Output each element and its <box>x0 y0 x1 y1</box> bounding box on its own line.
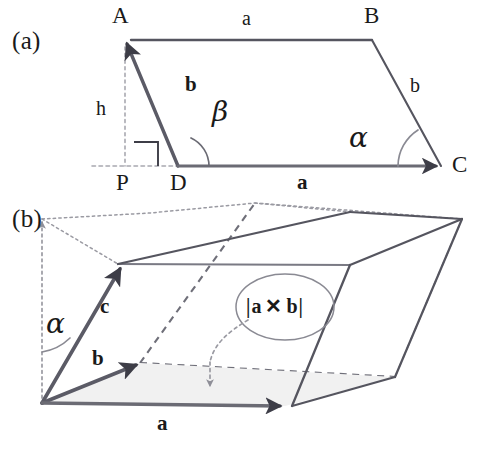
vertex-label-C: C <box>452 153 467 176</box>
cross-times-icon: ✕ <box>262 295 286 317</box>
vector-label-b-panel-a: b <box>185 74 197 95</box>
cross-operand-a: a <box>251 295 262 317</box>
vector-geometry-figure: (a) A B C D P a b h b a β α (b) c b a α … <box>0 0 490 450</box>
panel-a-tag: (a) <box>12 28 41 53</box>
panel-a-graphics <box>92 40 441 166</box>
angle-label-alpha-panel-a: α <box>349 124 368 152</box>
callout-curve-dotted <box>210 320 248 362</box>
top-face-right-edge <box>350 212 462 219</box>
vertex-label-D: D <box>170 171 187 194</box>
back-top-dotted-edge <box>42 203 350 219</box>
angle-arc-alpha-b <box>42 338 70 352</box>
vector-label-a-panel-a: a <box>297 172 308 193</box>
cross-bar-right: | <box>299 295 304 317</box>
side-label-top-a: a <box>242 8 251 28</box>
angle-arc-beta <box>191 138 209 166</box>
figure-canvas <box>0 0 490 450</box>
vector-label-b-panel-b: b <box>92 348 104 369</box>
vector-label-a-panel-b: a <box>157 413 168 434</box>
hidden-edge-btip-vertical-dashed <box>140 203 255 363</box>
top-face-near-edge <box>118 264 350 265</box>
angle-label-beta: β <box>212 98 228 126</box>
vertex-label-B: B <box>364 4 379 27</box>
panel-b-tag: (b) <box>12 206 42 231</box>
cross-operand-b: b <box>286 295 298 317</box>
angle-label-alpha-panel-b: α <box>46 310 65 338</box>
right-angle-marker <box>134 142 158 166</box>
vector-b-arrow-a <box>127 44 178 166</box>
angle-arc-alpha-a <box>398 130 418 166</box>
cross-product-label: |a✕b| <box>246 296 304 316</box>
side-BC <box>372 40 441 166</box>
vector-label-c-panel-b: c <box>100 296 109 317</box>
vertex-label-P: P <box>116 171 129 194</box>
vertex-label-A: A <box>112 4 129 27</box>
side-label-right-b: b <box>410 75 420 95</box>
height-label-h: h <box>96 98 106 118</box>
top-face-back-slant <box>118 212 350 264</box>
back-left-to-ctip-dotted <box>42 219 118 264</box>
